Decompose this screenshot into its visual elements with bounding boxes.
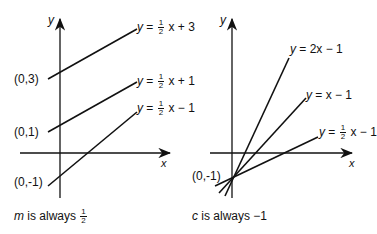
left-x-axis-label: x (161, 158, 167, 169)
intercept-label-0-neg1: (0,-1) (14, 176, 43, 188)
intercept-label-0-3: (0,3) (14, 73, 39, 85)
equation-x-minus-1: y = x − 1 (306, 89, 352, 101)
line-half-x-plus-1 (48, 82, 137, 132)
intercept-label-0-1: (0,1) (14, 126, 39, 138)
equation-half-x-plus-1: y = 12 x + 1 (137, 73, 195, 90)
equation-half-x-plus-3: y = 12 x + 3 (137, 19, 195, 36)
fraction-one-half: 12 (158, 100, 164, 117)
intercept-label-right: (0,-1) (192, 170, 221, 182)
caption-slope: m is always 12 (14, 208, 88, 225)
fraction-one-half: 12 (340, 124, 346, 141)
equation-half-x-minus-1: y = 12 x − 1 (137, 100, 195, 117)
line-half-x-plus-3 (48, 29, 137, 79)
fraction-one-half: 12 (80, 208, 86, 225)
left-y-axis-label: y (48, 14, 54, 26)
right-y-axis-label: y (220, 14, 226, 26)
line-half-x-minus-1 (48, 112, 137, 186)
equation-half-x-minus-1-right: y = 12 x − 1 (319, 124, 377, 141)
equation-2x-minus-1: y = 2x − 1 (290, 43, 343, 55)
right-x-axis-label: x (349, 158, 355, 169)
fraction-one-half: 12 (158, 19, 164, 36)
line-half-x-minus-1-right (215, 137, 318, 186)
caption-intercept: c is always −1 (192, 210, 267, 222)
fraction-one-half: 12 (158, 73, 164, 90)
